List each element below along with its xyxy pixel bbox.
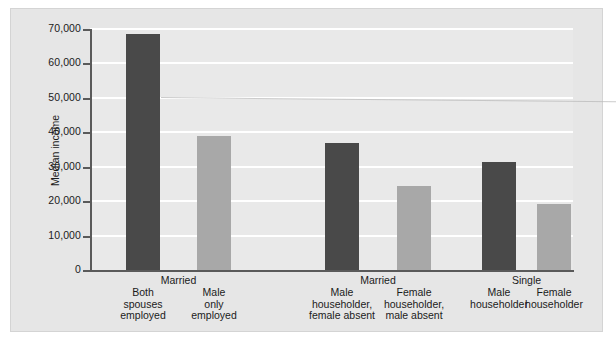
y-tick-mark [83, 132, 90, 134]
gridline [90, 62, 573, 64]
category-label: Female householder, male absent [372, 287, 456, 322]
bar [197, 136, 231, 270]
bar [325, 143, 359, 270]
y-tick-mark [83, 98, 90, 100]
y-tick-label: 0 [75, 263, 81, 275]
y-tick-mark [83, 29, 90, 31]
gridline [90, 131, 573, 133]
group-label: Single [472, 274, 582, 286]
bar [482, 162, 516, 270]
y-tick-mark [83, 201, 90, 203]
y-axis-tick-labels: 70,00060,00050,00040,00030,00020,00010,0… [11, 9, 81, 272]
group-label: Married [124, 274, 234, 286]
gridline [90, 28, 573, 30]
category-label: Female householder [512, 287, 596, 310]
bar [126, 34, 160, 270]
y-tick-mark [83, 270, 90, 272]
y-tick-mark [83, 236, 90, 238]
y-axis-title: Median income [49, 29, 63, 272]
category-label: Male only employed [172, 287, 256, 322]
y-axis-line [90, 29, 92, 272]
x-axis-line [90, 270, 574, 272]
bar [537, 204, 571, 270]
chart-frame: 70,00060,00050,00040,00030,00020,00010,0… [10, 8, 603, 332]
y-tick-mark [83, 167, 90, 169]
group-label: Married [323, 274, 433, 286]
y-tick-mark [83, 63, 90, 65]
category-labels: Both spouses employedMale only employedM… [90, 273, 574, 335]
y-axis-title-wrapper: Median income [49, 272, 63, 342]
bar [397, 186, 431, 270]
